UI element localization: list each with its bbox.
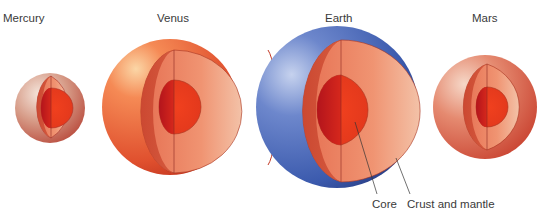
mars-label: Mars: [472, 12, 498, 24]
mercury-cutaway: [15, 73, 85, 143]
crust-leader-line: [396, 158, 410, 194]
mercury-label: Mercury: [3, 12, 45, 24]
mars-cutaway: [433, 55, 537, 159]
venus-cutaway: [102, 39, 277, 175]
venus-label: Venus: [157, 12, 189, 24]
earth-cutaway: [256, 26, 420, 188]
core-annotation: Core: [372, 198, 397, 210]
planets-diagram: [0, 0, 549, 221]
crust-mantle-annotation: Crust and mantle: [407, 198, 495, 210]
earth-label: Earth: [325, 12, 353, 24]
